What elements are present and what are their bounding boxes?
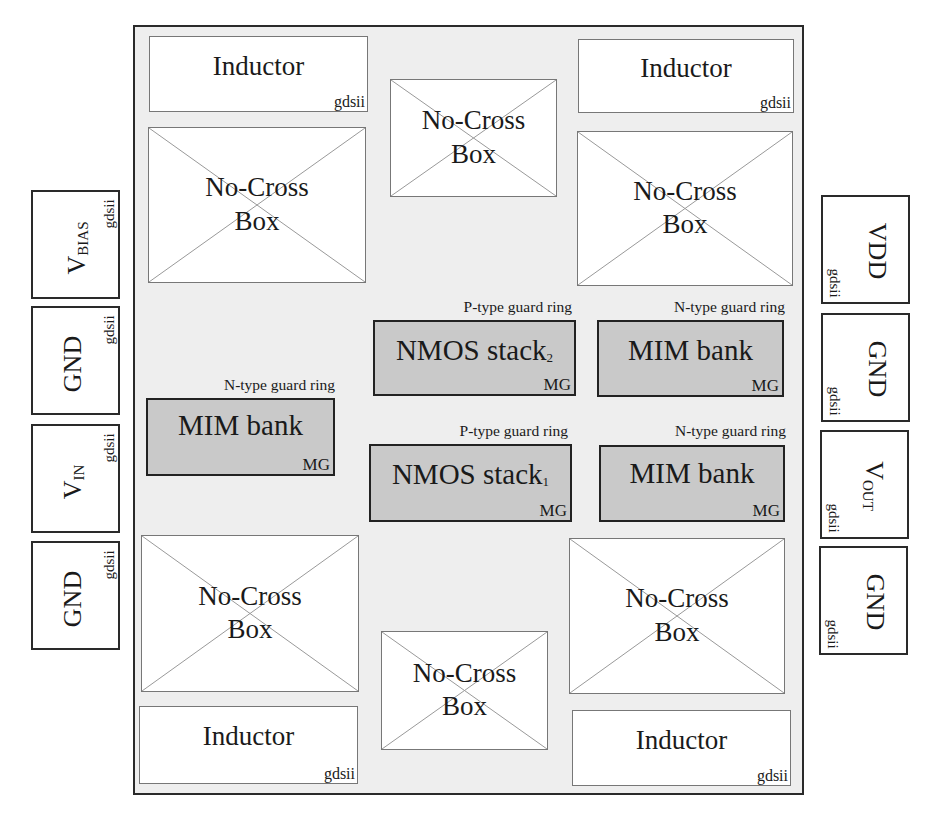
nmos-stack-1-block: NMOS stack1 MG [369,444,572,522]
gdsii-tag: gdsii [101,433,118,462]
guard-ring-label: P-type guard ring [368,422,568,440]
mg-tag: MG [544,375,571,395]
pad-label: V [58,481,87,500]
gdsii-tag: gdsii [334,93,365,111]
mim-bank-bottom-right-block: MIM bank MG [599,445,785,522]
no-cross-box-bottom-right: No-CrossBox [569,538,785,694]
ncb-line1: No-Cross [149,171,365,205]
pad-subscript: IN [71,465,87,481]
pad-vdd: VDD gdsii [821,195,910,304]
block-label: NMOS stack [396,334,547,366]
pad-gnd-left-1: GND gdsii [31,306,120,415]
gdsii-tag: gdsii [760,94,791,112]
gdsii-tag: gdsii [826,268,843,297]
gdsii-tag: gdsii [101,199,118,228]
inductor-top-right: Inductor gdsii [578,39,794,113]
gdsii-tag: gdsii [324,765,355,783]
pad-label: GND [58,571,88,627]
gdsii-tag: gdsii [824,619,841,648]
gdsii-tag: gdsii [101,550,118,579]
ncb-line1: No-Cross [570,582,784,616]
pad-vout: VOUT gdsii [820,430,909,539]
block-label: NMOS stack [392,458,543,490]
mg-tag: MG [540,501,567,521]
gdsii-tag: gdsii [757,767,788,785]
pad-vbias: VBIAS gdsii [31,190,120,299]
gdsii-tag: gdsii [826,386,843,415]
pad-vin: VIN gdsii [31,424,120,533]
inductor-top-left: Inductor gdsii [149,36,368,112]
gdsii-tag: gdsii [825,503,842,532]
block-label: MIM bank [178,409,303,441]
inductor-label: Inductor [573,725,790,756]
pad-label: V [860,461,889,480]
guard-ring-label: P-type guard ring [372,298,572,316]
mg-tag: MG [303,455,330,475]
pad-subscript: OUT [860,480,876,511]
ncb-line1: No-Cross [391,104,556,138]
block-label: MIM bank [630,457,755,489]
pad-gnd-right-1: GND gdsii [821,313,910,422]
ncb-line2: Box [142,614,358,648]
inductor-bottom-right: Inductor gdsii [572,710,791,786]
guard-ring-label: N-type guard ring [135,376,335,394]
mg-tag: MG [752,376,779,396]
ncb-line2: Box [391,138,556,172]
block-subscript: 2 [547,350,554,365]
ncb-line2: Box [149,205,365,239]
nmos-stack-2-block: NMOS stack2 MG [373,320,576,396]
inductor-label: Inductor [579,53,793,84]
guard-ring-label: N-type guard ring [585,298,785,316]
ncb-line1: No-Cross [142,580,358,614]
ncb-line2: Box [570,616,784,650]
no-cross-box-bottom-center: No-CrossBox [381,631,548,750]
no-cross-box-bottom-left: No-CrossBox [141,535,359,692]
pad-subscript: BIAS [75,222,91,256]
pad-label: GND [860,574,890,630]
block-label: MIM bank [628,334,753,366]
no-cross-box-top-right: No-CrossBox [577,131,793,286]
mg-tag: MG [753,501,780,521]
ncb-line1: No-Cross [382,657,547,691]
ncb-line1: No-Cross [578,175,792,209]
ncb-line2: Box [578,209,792,243]
pad-label: V [62,256,91,275]
no-cross-box-top-left: No-CrossBox [148,127,366,283]
pad-gnd-left-2: GND gdsii [31,541,120,650]
inductor-label: Inductor [150,51,367,82]
guard-ring-label: N-type guard ring [586,422,786,440]
ncb-line2: Box [382,691,547,725]
pad-label: GND [58,336,88,392]
pad-label: VDD [862,223,892,279]
mim-bank-top-right-block: MIM bank MG [597,320,784,397]
pad-label: GND [862,341,892,397]
block-subscript: 1 [543,474,550,489]
no-cross-box-top-center: No-CrossBox [390,79,557,197]
pad-gnd-right-2: GND gdsii [819,546,908,655]
inductor-bottom-left: Inductor gdsii [139,706,358,784]
inductor-label: Inductor [140,721,357,752]
gdsii-tag: gdsii [101,315,118,344]
mim-bank-left-block: MIM bank MG [146,398,335,476]
